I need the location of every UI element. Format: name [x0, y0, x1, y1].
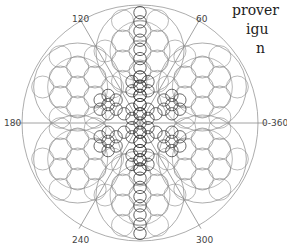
- petal-outer-circle: [94, 184, 116, 206]
- petal-circle: [112, 50, 134, 72]
- petal-center-circle: [191, 148, 213, 170]
- petal-circle: [112, 194, 134, 216]
- petal-outer-circle: [226, 76, 248, 98]
- petal-circle: [129, 20, 151, 42]
- petal-outer-circle: [112, 154, 134, 176]
- petal-outer-circle: [32, 148, 54, 170]
- petal-outer-circle: [209, 46, 231, 68]
- axis-label-240: 240: [72, 235, 89, 245]
- axis-label-120: 120: [72, 14, 89, 24]
- petal-outer-circle: [226, 148, 248, 170]
- petal-circle: [112, 30, 134, 52]
- petal-outer-circle: [209, 118, 231, 140]
- petal-outer-circle: [147, 154, 169, 176]
- petal-circle: [49, 158, 71, 180]
- petal-circle: [209, 158, 231, 180]
- petal-circle: [112, 174, 134, 196]
- petal-circle: [49, 138, 71, 160]
- petal-circle: [174, 66, 196, 88]
- petal-center-circle: [67, 76, 89, 98]
- petal-circle: [67, 56, 89, 78]
- petal-outer-circle: [147, 214, 169, 236]
- petal-circle: [146, 50, 168, 72]
- petal-outer-circle: [112, 70, 134, 92]
- petal-circle: [129, 204, 151, 226]
- petal-outer-circle: [209, 178, 231, 200]
- petal-outer-circle: [147, 10, 169, 32]
- petal-circle: [209, 138, 231, 160]
- petal-outer-circle: [32, 76, 54, 98]
- petal-outer-circle: [94, 40, 116, 62]
- polar-circle-diagram: 0-360 60 120 180 240 300: [0, 0, 287, 246]
- petal-circle: [191, 168, 213, 190]
- petal-outer-circle: [49, 106, 71, 128]
- petal-circle: [84, 66, 106, 88]
- petal-outer-circle: [49, 118, 71, 140]
- petal-circle: [67, 168, 89, 190]
- petal-circle: [146, 174, 168, 196]
- petal-outer-circle: [209, 106, 231, 128]
- petal-circle: [146, 30, 168, 52]
- petal-outer-circle: [84, 46, 106, 68]
- axis-label-180: 180: [4, 118, 21, 128]
- side-text-line-1: prover: [232, 2, 279, 19]
- column-circle: [134, 227, 146, 239]
- axis-label-0: 0-360: [262, 118, 287, 128]
- petal-center-circle: [67, 148, 89, 170]
- petal-circle: [191, 56, 213, 78]
- axis-label-300: 300: [196, 235, 213, 245]
- petal-outer-circle: [84, 178, 106, 200]
- petal-outer-circle: [164, 40, 186, 62]
- petal-outer-circle: [112, 10, 134, 32]
- petal-circle: [146, 194, 168, 216]
- side-text-line-2: igu: [246, 21, 268, 38]
- axis-label-60: 60: [196, 14, 208, 24]
- petal-outer-circle: [49, 46, 71, 68]
- petal-circle: [84, 158, 106, 180]
- side-text-line-3: n: [256, 40, 265, 57]
- petal-outer-circle: [112, 214, 134, 236]
- petal-outer-circle: [174, 46, 196, 68]
- petal-circle: [49, 86, 71, 108]
- petal-outer-circle: [49, 178, 71, 200]
- petal-outer-circle: [164, 184, 186, 206]
- petal-circle: [174, 158, 196, 180]
- petal-circle: [49, 66, 71, 88]
- petal-circle: [209, 66, 231, 88]
- petal-circle: [209, 86, 231, 108]
- petal-outer-circle: [174, 178, 196, 200]
- petal-center-circle: [191, 76, 213, 98]
- petal-outer-circle: [147, 70, 169, 92]
